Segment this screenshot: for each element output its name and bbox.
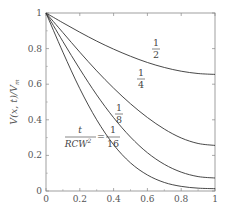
y-tick-label: 0.2 — [28, 150, 42, 160]
y-axis-label: V(x, t)/Vm — [8, 79, 20, 125]
annotation-denominator: RCW2 — [64, 137, 92, 149]
annotation-value-denominator: 16 — [107, 138, 119, 149]
y-axis-label-main: V(x, t)/V — [8, 84, 19, 125]
x-tick-label: 0.6 — [140, 194, 155, 202]
x-tick-label: 0.4 — [106, 194, 121, 202]
curve-1-over-4 — [46, 13, 215, 145]
svg-text:V(x, t)/Vm: V(x, t)/Vm — [8, 79, 20, 125]
plot-frame — [46, 13, 215, 191]
x-tick-label: 1 — [212, 194, 218, 202]
x-tick-label: 0.2 — [73, 194, 87, 202]
curve-label-1-over-2: 12 — [152, 37, 160, 60]
svg-text:4: 4 — [138, 79, 144, 90]
axes-box — [46, 13, 215, 191]
y-axis-label-sub: m — [13, 79, 20, 85]
x-tick-label: 0.8 — [174, 194, 189, 202]
svg-text:1: 1 — [153, 37, 159, 48]
annotation-equals: = — [97, 131, 105, 142]
svg-text:1: 1 — [116, 102, 122, 113]
data-curves — [46, 13, 215, 189]
curve-label-1-over-8: 18 — [115, 102, 123, 125]
x-tick-label: 0 — [43, 194, 49, 202]
curve-1-over-8 — [46, 13, 215, 178]
y-tick-label: 0.8 — [28, 44, 43, 54]
curve-1-over-16 — [46, 13, 215, 189]
chart: 00.20.40.60.8100.20.40.60.81 121418 x/W … — [0, 0, 230, 202]
curve-labels: 121418 — [115, 37, 160, 125]
y-tick-label: 0 — [36, 186, 42, 196]
curve-label-1-over-4: 14 — [137, 67, 145, 90]
svg-text:8: 8 — [116, 114, 122, 125]
annotation-value-numerator: 1 — [110, 124, 116, 135]
y-tick-label: 1 — [36, 8, 42, 18]
annotation-numerator: t — [78, 125, 82, 135]
y-tick-label: 0.6 — [28, 79, 43, 89]
svg-text:1: 1 — [138, 67, 144, 78]
curve-1-over-2 — [46, 13, 215, 74]
y-tick-label: 0.4 — [28, 115, 43, 125]
annotation-t-over-rcw2: t RCW2 = 1 16 — [64, 124, 120, 149]
svg-text:2: 2 — [153, 49, 159, 60]
